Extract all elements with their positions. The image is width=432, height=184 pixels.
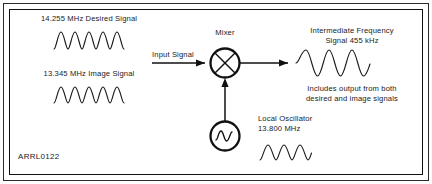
- desired-signal-label: 14.255 MHz Desired Signal: [22, 14, 156, 24]
- mixer-output-note-label: Includes output from both desired and im…: [286, 84, 418, 103]
- if-output-arrowhead: [279, 59, 288, 66]
- local-oscillator-waveform: [260, 145, 312, 160]
- figure-credit-label: ARRL0122: [18, 152, 60, 161]
- image-signal-waveform: [54, 87, 124, 103]
- input-signal-label: Input Signal: [152, 50, 212, 60]
- mixer-label: Mixer: [199, 28, 251, 38]
- local-oscillator-label: Local Oscillator 13.800 MHz: [258, 114, 368, 133]
- local-oscillator-arrowhead: [221, 78, 228, 87]
- local-oscillator-symbol-circle: [211, 122, 240, 151]
- mixer-block-diagram-figure: 14.255 MHz Desired Signal 13.345 MHz Ima…: [0, 0, 432, 184]
- image-signal-label: 13.345 MHz Image Signal: [22, 69, 156, 79]
- input-signal-arrowhead: [196, 59, 205, 66]
- desired-signal-waveform: [54, 32, 124, 49]
- if-signal-label: Intermediate Frequency Signal 455 kHz: [288, 26, 416, 45]
- if-signal-waveform: [296, 50, 370, 76]
